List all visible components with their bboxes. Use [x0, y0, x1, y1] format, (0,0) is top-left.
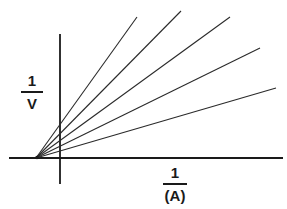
x-label-numerator: 1 — [163, 165, 187, 183]
x-label-denominator: (A) — [163, 185, 187, 203]
line-2 — [36, 11, 181, 158]
y-label-numerator: 1 — [21, 73, 43, 91]
lineweaver-burk-plot — [0, 0, 287, 209]
y-label-denominator: V — [21, 93, 43, 111]
line-3 — [36, 17, 230, 158]
x-axis-label: 1 (A) — [163, 165, 187, 203]
data-lines — [36, 11, 276, 158]
line-1 — [36, 17, 137, 158]
y-axis-label: 1 V — [21, 73, 43, 111]
intersection-point — [35, 156, 39, 160]
